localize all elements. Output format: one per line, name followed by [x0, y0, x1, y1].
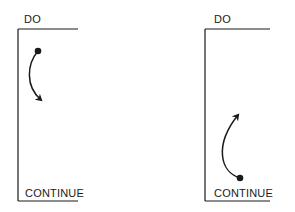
right-do-label: DO	[214, 13, 231, 25]
left-do-continue-frame	[18, 29, 78, 201]
left-down-arrow-icon	[29, 51, 41, 100]
left-do-label: DO	[24, 13, 41, 25]
diagram-canvas	[0, 0, 295, 212]
right-continue-label: CONTINUE	[214, 187, 273, 199]
left-continue-label: CONTINUE	[25, 187, 84, 199]
right-up-arrow-icon	[222, 115, 240, 178]
right-do-continue-frame	[205, 29, 270, 201]
